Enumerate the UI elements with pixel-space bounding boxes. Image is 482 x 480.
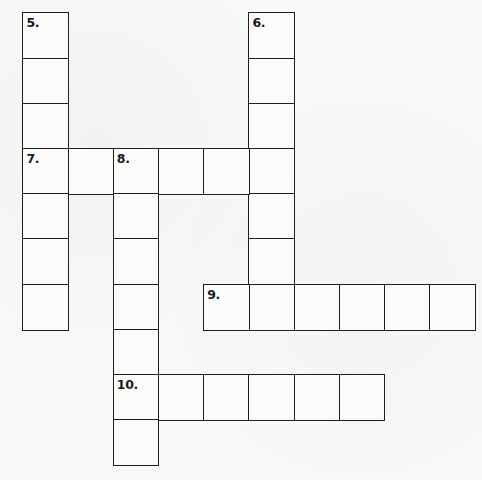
letter-input[interactable] (249, 239, 294, 284)
letter-input[interactable] (23, 104, 68, 149)
crossword-cell[interactable] (158, 148, 205, 195)
letter-input[interactable] (23, 13, 68, 58)
crossword-cell[interactable]: 9. (203, 284, 250, 331)
crossword-cell[interactable] (22, 238, 69, 285)
crossword-cell[interactable] (22, 284, 69, 331)
crossword-cell[interactable]: 6. (248, 12, 295, 59)
crossword-cell[interactable]: 7. (22, 148, 69, 195)
crossword-cell[interactable] (203, 374, 250, 421)
crossword-cell[interactable] (339, 374, 386, 421)
crossword-cell[interactable] (248, 374, 295, 421)
letter-input[interactable] (69, 149, 114, 194)
letter-input[interactable] (159, 149, 204, 194)
letter-input[interactable] (249, 13, 294, 58)
crossword-cell[interactable] (384, 284, 431, 331)
crossword-cell[interactable] (294, 284, 341, 331)
crossword-cell[interactable] (22, 103, 69, 150)
letter-input[interactable] (114, 239, 159, 284)
letter-input[interactable] (23, 149, 68, 194)
letter-input[interactable] (23, 239, 68, 284)
letter-input[interactable] (295, 285, 340, 330)
letter-input[interactable] (385, 285, 430, 330)
letter-input[interactable] (23, 59, 68, 104)
crossword-cell[interactable] (248, 238, 295, 285)
letter-input[interactable] (204, 375, 249, 420)
crossword-cell[interactable]: 5. (22, 12, 69, 59)
letter-input[interactable] (249, 59, 294, 104)
crossword-cell[interactable] (248, 193, 295, 240)
crossword-cell[interactable] (113, 284, 160, 331)
crossword-cell[interactable] (248, 103, 295, 150)
crossword-cell[interactable] (294, 374, 341, 421)
letter-input[interactable] (114, 194, 159, 239)
crossword-cell[interactable] (339, 284, 386, 331)
letter-input[interactable] (340, 285, 385, 330)
crossword-cell[interactable] (68, 148, 115, 195)
crossword-cell[interactable] (22, 58, 69, 105)
letter-input[interactable] (295, 375, 340, 420)
crossword-grid: 5.7.6.8.10.9. (0, 0, 482, 480)
letter-input[interactable] (249, 285, 294, 330)
letter-input[interactable] (114, 330, 159, 375)
letter-input[interactable] (114, 149, 159, 194)
letter-input[interactable] (114, 285, 159, 330)
letter-input[interactable] (114, 375, 159, 420)
crossword-cell[interactable] (158, 374, 205, 421)
letter-input[interactable] (204, 285, 249, 330)
letter-input[interactable] (204, 149, 249, 194)
letter-input[interactable] (249, 194, 294, 239)
letter-input[interactable] (114, 420, 159, 465)
crossword-cell[interactable] (113, 238, 160, 285)
crossword-cell[interactable]: 8. (113, 148, 160, 195)
crossword-cell[interactable] (429, 284, 476, 331)
crossword-cell[interactable] (203, 148, 250, 195)
crossword-cell[interactable] (248, 284, 295, 331)
letter-input[interactable] (249, 149, 294, 194)
crossword-cell[interactable] (22, 193, 69, 240)
letter-input[interactable] (159, 375, 204, 420)
letter-input[interactable] (249, 104, 294, 149)
crossword-cell[interactable] (248, 148, 295, 195)
crossword-cell[interactable] (113, 193, 160, 240)
crossword-cell[interactable]: 10. (113, 374, 160, 421)
letter-input[interactable] (430, 285, 475, 330)
letter-input[interactable] (249, 375, 294, 420)
crossword-cell[interactable] (113, 419, 160, 466)
letter-input[interactable] (23, 194, 68, 239)
crossword-cell[interactable] (113, 329, 160, 376)
crossword-cell[interactable] (248, 58, 295, 105)
letter-input[interactable] (23, 285, 68, 330)
letter-input[interactable] (340, 375, 385, 420)
